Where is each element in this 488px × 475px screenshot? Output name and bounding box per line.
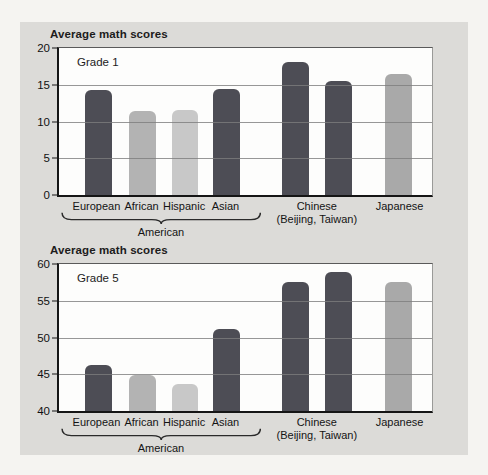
chart-title: Average math scores <box>50 244 468 256</box>
group-label-american: American <box>138 442 184 454</box>
group-label-american: American <box>138 226 184 238</box>
y-tick-mark <box>52 374 57 375</box>
gridline <box>59 338 432 339</box>
y-tick-label: 10 <box>37 116 50 128</box>
bar-european-american <box>85 90 112 195</box>
x-label-chinese: Chinese(Beijing, Taiwan) <box>277 416 358 442</box>
bar-asian-american <box>213 89 240 196</box>
y-tick-label: 50 <box>37 332 50 344</box>
y-tick-mark <box>52 300 57 301</box>
bar-african-american <box>129 111 156 195</box>
y-tick-mark <box>52 411 57 412</box>
x-label-sub: (Beijing, Taiwan) <box>277 213 358 226</box>
y-tick-mark <box>52 158 57 159</box>
american-group-brace <box>61 212 261 224</box>
x-label-japanese: Japanese <box>376 200 424 213</box>
grade-label: Grade 1 <box>77 56 119 68</box>
y-tick-mark <box>52 264 57 265</box>
y-tick-label: 40 <box>37 405 50 417</box>
figure-panel: Average math scores Grade 1 20151050 Eur… <box>20 22 468 455</box>
plot-area: Grade 5 6055504540 <box>57 263 433 413</box>
x-axis-labels: EuropeanAfricanHispanicAsianChinese(Beij… <box>57 413 433 467</box>
y-tick-mark <box>52 84 57 85</box>
x-label-sub: (Beijing, Taiwan) <box>277 429 358 442</box>
x-label-chinese: Chinese(Beijing, Taiwan) <box>277 200 358 226</box>
x-label-japanese: Japanese <box>376 416 424 429</box>
bar-african-american <box>129 375 156 411</box>
y-tick-label: 45 <box>37 368 50 380</box>
y-tick-label: 20 <box>37 42 50 54</box>
gridline <box>59 122 432 123</box>
y-tick-mark <box>52 121 57 122</box>
chart-title: Average math scores <box>50 28 468 40</box>
bar-japanese <box>385 74 412 196</box>
american-group-brace <box>61 428 261 440</box>
y-tick-label: 0 <box>44 189 50 201</box>
bar-asian-american <box>213 329 240 412</box>
y-tick-label: 55 <box>37 295 50 307</box>
bar-hispanic-american <box>172 384 199 411</box>
grade1-chart: Average math scores Grade 1 20151050 Eur… <box>20 28 468 251</box>
gridline <box>59 85 432 86</box>
gridline <box>59 374 432 375</box>
grade-label: Grade 5 <box>77 272 119 284</box>
y-tick-mark <box>52 48 57 49</box>
bar-chinese-taiwan <box>325 81 352 195</box>
plot-area: Grade 1 20151050 <box>57 47 433 197</box>
x-axis-labels: EuropeanAfricanHispanicAsianChinese(Beij… <box>57 197 433 251</box>
plot-row: Grade 1 20151050 <box>57 47 433 197</box>
figure-background: Average math scores Grade 1 20151050 Eur… <box>0 0 488 475</box>
y-tick-mark <box>52 195 57 196</box>
y-tick-mark <box>52 337 57 338</box>
bar-chinese-taiwan <box>325 272 352 412</box>
grade5-chart: Average math scores Grade 5 6055504540 E… <box>20 244 468 467</box>
y-tick-label: 60 <box>37 258 50 270</box>
gridline <box>59 158 432 159</box>
y-tick-label: 5 <box>44 152 50 164</box>
bar-european-american <box>85 365 112 412</box>
gridline <box>59 301 432 302</box>
plot-row: Grade 5 6055504540 <box>57 263 433 413</box>
y-tick-label: 15 <box>37 79 50 91</box>
bar-chinese-beijing <box>282 62 309 196</box>
